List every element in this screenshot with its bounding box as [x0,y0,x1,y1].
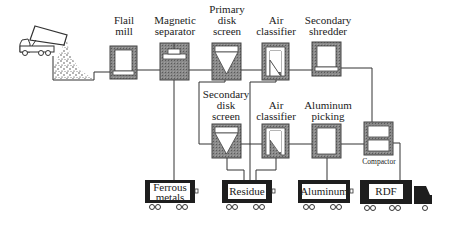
process-flow-diagram: Flail mill Magnetic separator Primary di… [0,0,450,225]
aluminum-picking-label: Aluminum picking [302,100,354,122]
air-classifier-2-unit [262,124,289,158]
dump-truck-source [20,26,94,80]
rdf-label: RDF [369,186,403,196]
air-classifier-2-label: Air classifier [252,100,300,122]
compactor-unit [364,122,393,155]
flail-mill-unit [110,46,137,79]
secondary-shredder-unit [312,42,341,76]
primary-disk-screen-label: Primary disk screen [204,4,250,37]
magnetic-separator-unit [160,43,189,80]
residue-label: Residue [228,186,266,196]
aluminum-picking-unit [312,124,341,158]
air-classifier-1-unit [262,43,289,80]
aluminum-label: Aluminum [300,186,348,196]
flow-lines [94,68,400,180]
primary-disk-screen-unit [212,43,241,80]
flail-mill-label: Flail mill [108,15,140,37]
compactor-label: Compactor [356,158,402,166]
secondary-disk-screen-label: Secondary disk screen [198,89,254,122]
ferrous-metals-label: Ferrous metals [150,182,190,202]
magnetic-separator-label: Magnetic separator [148,15,202,37]
secondary-disk-screen-unit [212,124,241,158]
air-classifier-1-label: Air classifier [252,15,300,37]
secondary-shredder-label: Secondary shredder [302,15,354,37]
